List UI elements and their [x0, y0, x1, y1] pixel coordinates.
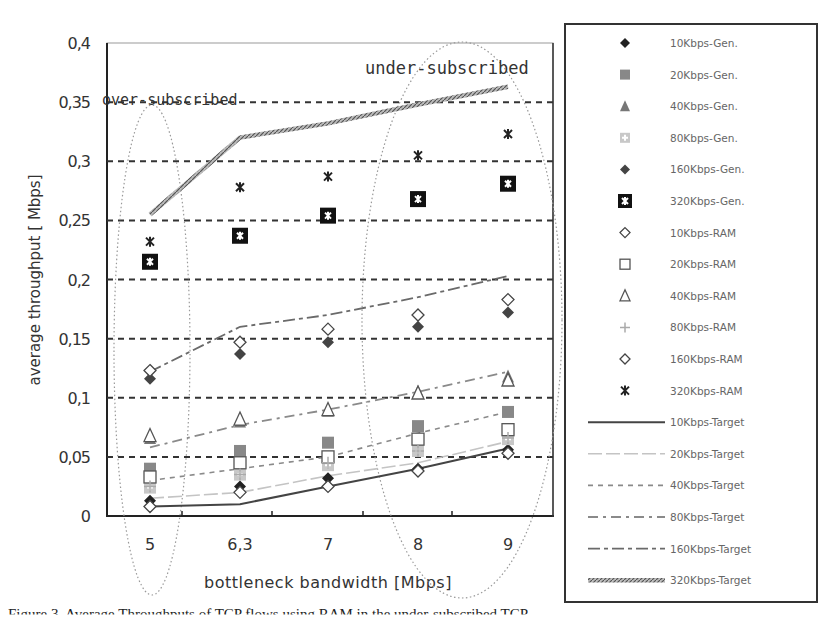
legend: 10Kbps-Gen.20Kbps-Gen.40Kbps-Gen.80Kbps-…: [565, 24, 817, 602]
legend-label: 80Kbps-Target: [670, 511, 744, 523]
markers-160Kbps-RAM: [144, 294, 514, 377]
markers-160Kbps-Gen.: [144, 307, 514, 385]
x-tick-label: 5: [145, 535, 155, 554]
under-subscribed-label: under-subscribed: [365, 58, 529, 78]
y-tick-label: 0,3: [68, 152, 90, 171]
y-tick-label: 0,05: [58, 448, 90, 467]
legend-label: 10Kbps-RAM: [670, 227, 736, 239]
open-square-icon: [620, 259, 630, 269]
light-square-cross-icon: [620, 133, 630, 143]
y-tick-label: 0,4: [68, 34, 91, 53]
y-tick-label: 0: [81, 507, 91, 526]
throughput-chart: 00,050,10,150,20,250,30,350,4 56,3789 av…: [0, 0, 838, 622]
gridlines: [107, 102, 553, 457]
legend-label: 80Kbps-Gen.: [670, 132, 738, 144]
filled-square-icon: [620, 70, 630, 80]
legend-label: 20Kbps-Target: [670, 448, 744, 460]
y-tick-label: 0,25: [58, 211, 90, 230]
legend-label: 160Kbps-RAM: [670, 353, 743, 365]
markers-320Kbps-Gen.: [142, 176, 516, 270]
x-axis-ticks: 56,3789: [145, 511, 513, 554]
y-axis-label: average throughput [ Mbps]: [26, 174, 44, 385]
y-tick-label: 0,1: [68, 389, 90, 408]
legend-label: 160Kbps-Target: [670, 543, 751, 555]
legend-label: 320Kbps-RAM: [670, 385, 743, 397]
markers-320Kbps-RAM: [146, 129, 512, 247]
x-tick-label: 8: [413, 535, 423, 554]
x-axis-label: bottleneck bandwidth [Mbps]: [204, 573, 452, 592]
legend-label: 80Kbps-RAM: [670, 321, 736, 333]
legend-label: 320Kbps-Gen.: [670, 195, 745, 207]
y-tick-label: 0,2: [68, 271, 90, 290]
y-axis-ticks: 00,050,10,150,20,250,30,350,4: [58, 34, 90, 526]
legend-label: 10Kbps-Target: [670, 416, 744, 428]
black-box-star-icon: [618, 194, 632, 208]
legend-label: 20Kbps-RAM: [670, 258, 736, 270]
y-tick-label: 0,35: [58, 93, 90, 112]
legend-label: 40Kbps-Gen.: [670, 100, 738, 112]
x-tick-label: 9: [503, 535, 513, 554]
x-tick-label: 7: [323, 535, 333, 554]
legend-label: 40Kbps-RAM: [670, 290, 736, 302]
legend-label: 160Kbps-Gen.: [670, 163, 745, 175]
over-subscribed-label: over-subscribed: [102, 91, 237, 109]
legend-label: 10Kbps-Gen.: [670, 37, 738, 49]
y-tick-label: 0,15: [58, 330, 90, 349]
legend-label: 40Kbps-Target: [670, 479, 744, 491]
legend-label: 320Kbps-Target: [670, 574, 751, 586]
data-markers: [142, 129, 516, 512]
x-tick-label: 6,3: [227, 535, 252, 554]
under-subscribed-ellipse: [362, 42, 562, 598]
legend-label: 20Kbps-Gen.: [670, 69, 738, 81]
over-subscribed-ellipse: [114, 105, 190, 595]
